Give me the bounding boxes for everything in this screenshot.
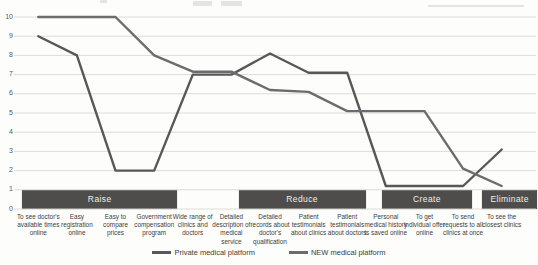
x-category-label-9: Patient testimonials about doctors <box>326 213 369 238</box>
x-category-label-11: To get individual offer online <box>403 213 446 238</box>
new-series-line-swatch-icon <box>289 251 308 253</box>
x-category-label-7: Detailed records about doctor's qualific… <box>249 213 292 246</box>
y-axis-tick-9: 9 <box>0 32 13 39</box>
legend-label-new: NEW medical platform <box>311 248 386 257</box>
x-category-label-2: Easy registration online <box>55 213 98 238</box>
y-axis-tick-6: 6 <box>0 89 13 96</box>
y-axis-tick-2: 2 <box>0 166 13 173</box>
y-axis-tick-1: 1 <box>0 185 13 192</box>
series-line-new <box>38 17 501 186</box>
y-axis-tick-5: 5 <box>0 109 13 116</box>
x-category-label-6: Detailed description of medical service <box>210 213 253 246</box>
x-category-label-10: Personal medical history is saved online <box>364 213 407 238</box>
legend-item-private: Private medical platform <box>152 248 254 257</box>
y-axis-tick-7: 7 <box>0 70 13 77</box>
x-category-label-8: Patient testimonials about clinics <box>287 213 330 238</box>
y-axis-tick-3: 3 <box>0 147 13 154</box>
y-axis-tick-10: 10 <box>0 13 13 20</box>
y-axis-tick-8: 8 <box>0 51 13 58</box>
series-line-private <box>38 36 501 186</box>
x-category-label-13: To see the closest clinics <box>480 213 523 229</box>
x-category-label-12: To send requests to all clinics at once <box>442 213 485 238</box>
private-series-line-swatch-icon <box>152 251 171 253</box>
x-category-label-3: Easy to compare prices <box>94 213 137 238</box>
strategy-canvas-chart: RaiseReduceCreateEliminate 012345678910 … <box>0 0 538 265</box>
legend: Private medical platform NEW medical pla… <box>0 248 538 257</box>
x-category-label-4: Government compensation program <box>133 213 176 238</box>
y-axis-tick-0: 0 <box>0 205 13 212</box>
legend-item-new: NEW medical platform <box>289 248 386 257</box>
x-category-label-5: Wide range of clinics and doctors <box>171 213 214 238</box>
x-category-label-1: To see doctor's available times online <box>17 213 60 238</box>
legend-label-private: Private medical platform <box>174 248 254 257</box>
y-axis-tick-4: 4 <box>0 128 13 135</box>
